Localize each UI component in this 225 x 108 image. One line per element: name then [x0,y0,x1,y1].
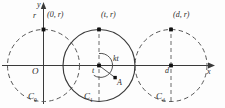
point-c0-top [42,28,46,32]
label-center-c1-axis: t [92,67,94,75]
point-c1-top [97,28,101,32]
label-point-c1-top: (t, r) [101,11,116,19]
point-cd-top [169,28,173,32]
label-circle-c1: C1 [84,92,93,103]
y-axis-arrow-icon [41,2,46,9]
label-circle-c0-sub: 0 [34,97,37,103]
x-axis-label: x [207,68,211,76]
figure-canvas: y x r (0, r) (t, r) (d, r) O t d kt A C0… [0,0,225,108]
label-center-cd-axis: d [165,67,169,75]
point-cd-center [169,64,173,68]
label-circle-cd: Cd [156,92,165,103]
label-point-a: A [117,79,122,87]
y-axis [41,2,46,104]
label-circle-c0: C0 [28,92,37,103]
label-point-c0-top: (0, r) [47,11,63,19]
label-angle-kt: kt [113,55,119,63]
label-point-cd-top: (d, r) [173,11,189,19]
label-circle-c1-sub: 1 [90,97,93,103]
point-c1-center [97,64,101,68]
y-axis-label: y [37,1,41,9]
label-circle-cd-sub: d [162,97,165,103]
origin-label: O [32,67,39,76]
radius-label-r: r [33,12,36,20]
